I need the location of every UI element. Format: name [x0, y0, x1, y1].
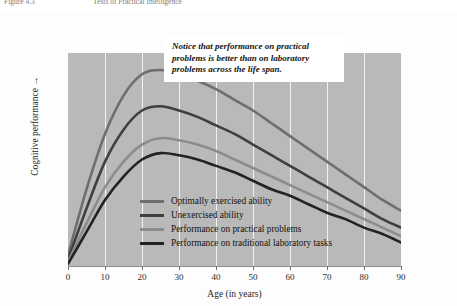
- y-axis-title-text: Cognitive performance: [30, 88, 40, 176]
- x-axis-tick: [142, 266, 143, 270]
- legend-swatch: [140, 214, 164, 217]
- legend-label: Unexercised ability: [171, 210, 244, 220]
- x-axis-tick-label: 60: [279, 272, 301, 282]
- legend-label: Performance on practical problems: [171, 224, 301, 234]
- legend-item: Unexercised ability: [140, 208, 332, 222]
- x-axis-tick-label: 50: [242, 272, 264, 282]
- x-axis-line: [68, 266, 401, 267]
- x-axis-title: Age (in years): [68, 289, 401, 299]
- x-axis-tick-label: 90: [390, 272, 412, 282]
- x-axis-tick: [401, 266, 402, 270]
- x-axis-tick-label: 20: [131, 272, 153, 282]
- legend-item: Performance on practical problems: [140, 222, 332, 236]
- x-axis-tick-label: 70: [316, 272, 338, 282]
- legend-item: Performance on traditional laboratory ta…: [140, 236, 332, 250]
- x-axis-tick: [105, 266, 106, 270]
- legend-swatch: [140, 228, 164, 231]
- callout-text: Notice that performance on practical pro…: [172, 41, 309, 74]
- x-axis-tick-label: 0: [57, 272, 79, 282]
- running-head: Figure 4.3 Tests of Practical Intelligen…: [0, 0, 457, 7]
- x-axis-tick: [253, 266, 254, 270]
- legend-label: Performance on traditional laboratory ta…: [171, 238, 332, 248]
- legend-item: Optimally exercised ability: [140, 194, 332, 208]
- running-head-title: Tests of Practical Intelligence: [93, 0, 182, 6]
- x-axis-tick: [364, 266, 365, 270]
- callout-box: Notice that performance on practical pro…: [164, 36, 344, 82]
- x-axis-tick: [216, 266, 217, 270]
- x-axis-tick-label: 30: [168, 272, 190, 282]
- x-axis-tick-label: 80: [353, 272, 375, 282]
- x-axis-tick: [327, 266, 328, 270]
- figure-container: Figure 4.3 Tests of Practical Intelligen…: [0, 0, 457, 306]
- x-axis-tick-label: 10: [94, 272, 116, 282]
- legend-label: Optimally exercised ability: [171, 196, 272, 206]
- legend-swatch: [140, 242, 164, 245]
- x-axis-tick-label: 40: [205, 272, 227, 282]
- x-axis-tick: [179, 266, 180, 270]
- legend: Optimally exercised abilityUnexercised a…: [140, 194, 332, 250]
- figure-number: Figure 4.3: [4, 0, 35, 6]
- x-axis-tick: [290, 266, 291, 270]
- legend-swatch: [140, 200, 164, 203]
- x-axis-tick: [68, 266, 69, 270]
- y-axis-title: Cognitive performance →: [30, 46, 40, 206]
- figure-sheet: 0102030405060708090 Age (in years) Cogni…: [0, 11, 457, 306]
